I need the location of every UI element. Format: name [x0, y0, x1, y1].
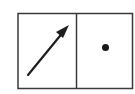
diagram [0, 0, 135, 94]
dot-icon [102, 44, 109, 51]
right-panel [102, 44, 109, 51]
left-panel [28, 25, 69, 75]
arrow-icon [28, 25, 69, 75]
outer-frame [18, 14, 133, 89]
